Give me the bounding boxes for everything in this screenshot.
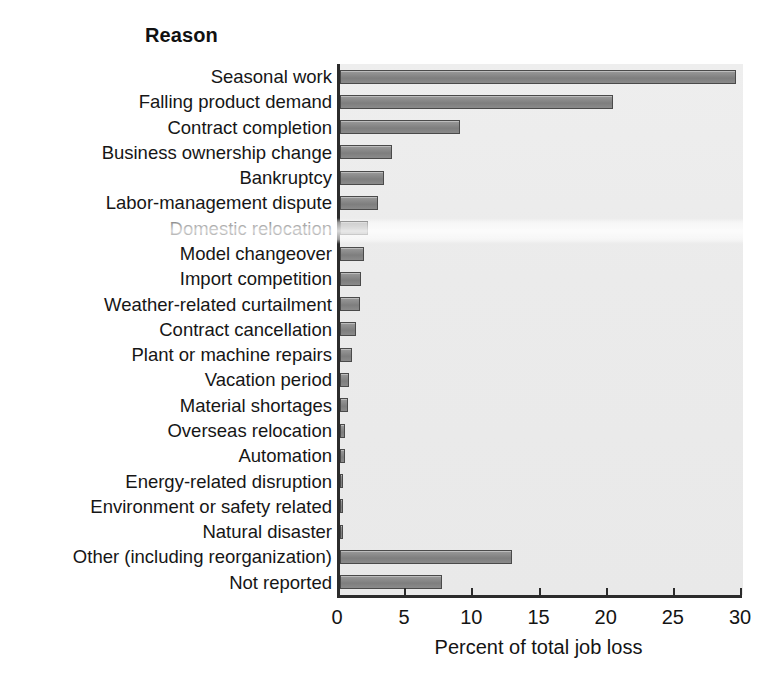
x-axis: 051015202530 [337, 595, 740, 598]
x-tick-mark [673, 588, 675, 598]
category-label: Overseas relocation [0, 418, 332, 443]
category-label-row: Plant or machine repairs [0, 342, 773, 367]
x-tick-label: 25 [662, 606, 684, 629]
category-label-row: Natural disaster [0, 519, 773, 544]
category-label: Weather-related curtailment [0, 292, 332, 317]
category-label-row: Automation [0, 443, 773, 468]
category-label: Material shortages [0, 393, 332, 418]
category-label: Business ownership change [0, 140, 332, 165]
x-tick-mark [740, 588, 742, 598]
x-tick-label: 15 [527, 606, 549, 629]
x-tick-label: 5 [399, 606, 410, 629]
x-tick-mark [337, 588, 339, 598]
category-label-row: Contract cancellation [0, 317, 773, 342]
category-label: Labor-management dispute [0, 190, 332, 215]
category-label-row: Domestic relocation [0, 216, 773, 241]
category-label: Other (including reorganization) [0, 544, 332, 569]
category-label: Import competition [0, 266, 332, 291]
category-label: Contract completion [0, 115, 332, 140]
category-label-row: Material shortages [0, 393, 773, 418]
chart-title: Reason [0, 24, 363, 47]
x-tick-label: 30 [729, 606, 751, 629]
category-label-row: Model changeover [0, 241, 773, 266]
category-label-row: Other (including reorganization) [0, 544, 773, 569]
category-label-row: Business ownership change [0, 140, 773, 165]
category-label-row: Import competition [0, 266, 773, 291]
x-tick-mark [606, 588, 608, 598]
category-label-row: Falling product demand [0, 89, 773, 114]
category-label-row: Weather-related curtailment [0, 292, 773, 317]
x-tick-mark [471, 588, 473, 598]
category-label: Falling product demand [0, 89, 332, 114]
category-label-row: Contract completion [0, 115, 773, 140]
category-label: Vacation period [0, 367, 332, 392]
category-label: Energy-related disruption [0, 469, 332, 494]
category-label: Domestic relocation [0, 216, 332, 241]
bar-chart-figure: Reason Seasonal workFalling product dema… [0, 0, 773, 691]
category-label: Bankruptcy [0, 165, 332, 190]
category-label-row: Vacation period [0, 367, 773, 392]
x-tick-mark [539, 588, 541, 598]
x-tick-label: 10 [460, 606, 482, 629]
category-label: Seasonal work [0, 64, 332, 89]
category-label: Model changeover [0, 241, 332, 266]
category-label-row: Not reported [0, 570, 773, 595]
category-label: Environment or safety related [0, 494, 332, 519]
category-label-row: Overseas relocation [0, 418, 773, 443]
category-label: Automation [0, 443, 332, 468]
category-label: Contract cancellation [0, 317, 332, 342]
category-label-row: Seasonal work [0, 64, 773, 89]
category-label-row: Bankruptcy [0, 165, 773, 190]
category-label: Natural disaster [0, 519, 332, 544]
x-tick-label: 0 [331, 606, 342, 629]
category-label-row: Energy-related disruption [0, 469, 773, 494]
category-label: Plant or machine repairs [0, 342, 332, 367]
x-tick-label: 20 [595, 606, 617, 629]
x-axis-label: Percent of total job loss [337, 636, 740, 659]
category-label-row: Labor-management dispute [0, 190, 773, 215]
x-tick-mark [404, 588, 406, 598]
category-label-row: Environment or safety related [0, 494, 773, 519]
category-label: Not reported [0, 570, 332, 595]
